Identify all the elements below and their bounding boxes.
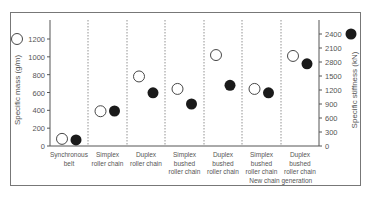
right-tick-label: 0 bbox=[325, 142, 329, 151]
stiffness-marker-filled bbox=[71, 134, 82, 145]
category-label: bushed bbox=[289, 160, 311, 167]
right-tick-label: 1200 bbox=[325, 86, 342, 95]
chart: 0200400600800100012000300600900120015002… bbox=[0, 0, 371, 200]
stiffness-marker-filled bbox=[186, 99, 197, 110]
right-tick-label: 2100 bbox=[325, 44, 342, 53]
mass-marker-open bbox=[134, 71, 145, 82]
category-label: belt bbox=[64, 160, 75, 167]
mass-marker-open bbox=[211, 50, 222, 61]
category-label: bushed bbox=[212, 160, 234, 167]
stiffness-marker-filled bbox=[148, 87, 159, 98]
right-tick-label: 1500 bbox=[325, 72, 342, 81]
left-tick-label: 200 bbox=[32, 124, 45, 133]
category-label: roller chain bbox=[207, 168, 239, 175]
left-tick-label: 0 bbox=[41, 142, 45, 151]
mass-marker-open bbox=[172, 83, 183, 94]
category-label: Simplex bbox=[96, 151, 120, 159]
mass-marker-open bbox=[288, 50, 299, 61]
category-label: Duplex bbox=[136, 151, 157, 159]
mass-marker-open bbox=[95, 106, 106, 117]
category-label: roller chain bbox=[130, 160, 162, 167]
right-axis-title: Specific stiffness (kN) bbox=[350, 51, 359, 128]
category-label: bushed bbox=[174, 160, 196, 167]
category-label: roller chain bbox=[92, 160, 124, 167]
category-label: roller chain bbox=[246, 168, 278, 175]
right-tick-label: 2800 bbox=[325, 58, 342, 67]
group-annotation: New chain generation bbox=[249, 177, 312, 185]
left-tick-label: 1200 bbox=[28, 35, 45, 44]
stiffness-marker-filled bbox=[302, 58, 313, 69]
right-tick-label: 600 bbox=[325, 114, 338, 123]
category-label: Simplex bbox=[250, 151, 274, 159]
left-tick-label: 1000 bbox=[28, 53, 45, 62]
left-tick-label: 600 bbox=[32, 89, 45, 98]
mass-marker-open bbox=[57, 133, 68, 144]
category-label: roller chain bbox=[284, 168, 316, 175]
stiffness-marker-filled bbox=[263, 87, 274, 98]
legend-stiffness-marker bbox=[346, 29, 357, 40]
right-tick-label: 2400 bbox=[325, 30, 342, 39]
category-label: Simplex bbox=[173, 151, 197, 159]
category-label: bushed bbox=[251, 160, 273, 167]
left-axis-title: Specific mass (g/m) bbox=[13, 55, 22, 126]
category-label: Duplex bbox=[290, 151, 311, 159]
mass-marker-open bbox=[249, 83, 260, 94]
stiffness-marker-filled bbox=[109, 106, 120, 117]
category-label: Duplex bbox=[213, 151, 234, 159]
right-tick-label: 900 bbox=[325, 100, 338, 109]
legend-mass-marker bbox=[12, 34, 23, 45]
left-tick-label: 400 bbox=[32, 106, 45, 115]
category-label: roller chain bbox=[169, 168, 201, 175]
right-tick-label: 300 bbox=[325, 128, 338, 137]
stiffness-marker-filled bbox=[225, 80, 236, 91]
left-tick-label: 800 bbox=[32, 71, 45, 80]
category-label: Synchronous bbox=[50, 151, 89, 159]
